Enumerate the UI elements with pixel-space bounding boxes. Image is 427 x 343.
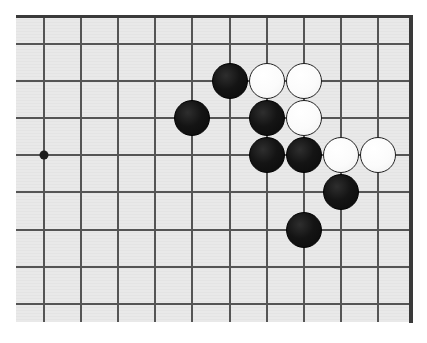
black-stone-c5-r1[interactable] bbox=[212, 63, 248, 99]
board-surface bbox=[16, 16, 412, 322]
grid-line-vertical-3 bbox=[154, 16, 156, 322]
grid-line-horizontal-0 bbox=[16, 43, 412, 45]
grid-line-horizontal-5 bbox=[16, 229, 412, 231]
black-stone-c4-r2[interactable] bbox=[174, 100, 210, 136]
black-stone-c7-r5[interactable] bbox=[286, 212, 322, 248]
white-stone-c7-r1[interactable] bbox=[286, 63, 322, 99]
black-stone-c6-r3[interactable] bbox=[249, 137, 285, 173]
board-border-right bbox=[409, 15, 413, 323]
grid-line-vertical-0 bbox=[43, 16, 45, 322]
grid-line-horizontal-6 bbox=[16, 266, 412, 268]
grid-line-vertical-1 bbox=[80, 16, 82, 322]
white-stone-c7-r2[interactable] bbox=[286, 100, 322, 136]
grid-line-horizontal-7 bbox=[16, 303, 412, 305]
board-border-top bbox=[16, 15, 413, 18]
grid-line-vertical-4 bbox=[191, 16, 193, 322]
star-point-0 bbox=[40, 151, 49, 160]
black-stone-c6-r2[interactable] bbox=[249, 100, 285, 136]
white-stone-c8-r3[interactable] bbox=[323, 137, 359, 173]
grid-line-horizontal-2 bbox=[16, 117, 412, 119]
grid-line-vertical-2 bbox=[117, 16, 119, 322]
white-stone-c6-r1[interactable] bbox=[249, 63, 285, 99]
go-board-diagram bbox=[0, 0, 427, 343]
black-stone-c7-r3[interactable] bbox=[286, 137, 322, 173]
white-stone-c9-r3[interactable] bbox=[360, 137, 396, 173]
black-stone-c8-r4[interactable] bbox=[323, 174, 359, 210]
grid-line-vertical-5 bbox=[229, 16, 231, 322]
